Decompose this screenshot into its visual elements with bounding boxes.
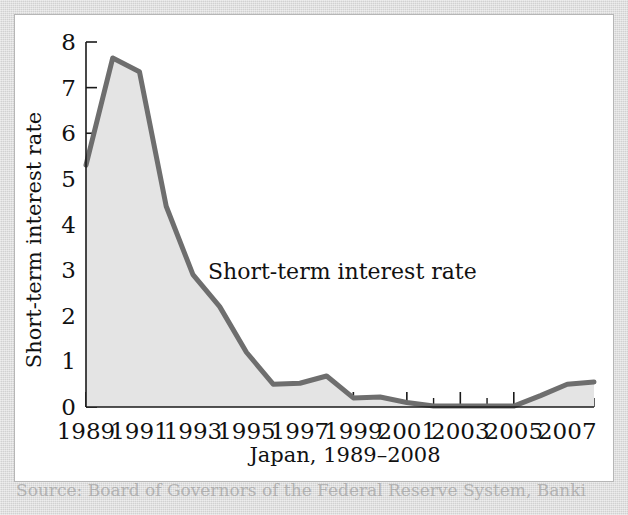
x-axis-tick-label: 1997 xyxy=(271,418,330,444)
y-axis-tick-label: 3 xyxy=(61,257,76,283)
y-axis-tick-label: 2 xyxy=(61,303,76,329)
y-axis-tick-labels: 012345678 xyxy=(61,29,76,420)
x-axis-tick-labels: 1989199119931995199719992001200320052007 xyxy=(57,418,597,444)
x-axis-tick-label: 1991 xyxy=(110,418,169,444)
x-axis-tick-label: 2005 xyxy=(485,418,544,444)
x-axis-tick-label: 1989 xyxy=(57,418,116,444)
y-axis-tick-label: 5 xyxy=(61,166,76,192)
x-axis-tick-label: 2007 xyxy=(538,418,597,444)
series-annotation-label: Short-term interest rate xyxy=(208,259,477,284)
y-axis-tick-label: 4 xyxy=(61,212,76,238)
source-note-strip: Source: Board of Governors of the Federa… xyxy=(0,482,628,515)
y-axis-tick-label: 6 xyxy=(61,120,76,146)
x-axis-caption: Japan, 1989–2008 xyxy=(247,443,440,467)
y-axis-tick-label: 1 xyxy=(61,348,76,374)
x-axis-tick-label: 2001 xyxy=(378,418,437,444)
short-term-interest-rate-chart: Short-term interest rate 012345678 19891… xyxy=(15,15,615,483)
chart-plot-area: Short-term interest rate 012345678 19891… xyxy=(15,15,615,483)
x-axis-tick-label: 2003 xyxy=(431,418,490,444)
source-note: Source: Board of Governors of the Federa… xyxy=(16,482,616,500)
x-axis-tick-label: 1993 xyxy=(164,418,223,444)
x-axis-tick-label: 1999 xyxy=(324,418,383,444)
y-axis-tick-label: 8 xyxy=(61,29,76,55)
figure-card: Short-term interest rate 012345678 19891… xyxy=(14,14,614,482)
y-axis-tick-label: 7 xyxy=(61,75,76,101)
y-axis-tick-label: 0 xyxy=(61,394,76,420)
x-axis-tick-label: 1995 xyxy=(217,418,276,444)
y-axis-title: Short-term interest rate xyxy=(22,112,46,369)
series-area-fill xyxy=(86,58,594,407)
